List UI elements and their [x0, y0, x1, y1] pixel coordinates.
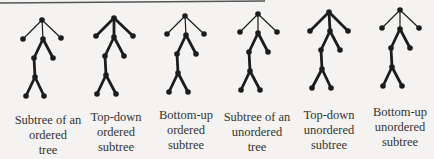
caption-line: tree [217, 140, 297, 155]
thick-edge-A-C [105, 56, 106, 75]
trees-layer [20, 7, 422, 99]
caption-line: Top-down [289, 108, 369, 123]
caption-line: Bottom-up [360, 105, 434, 120]
thick-edge-M-A [105, 37, 114, 56]
tree-node-L [379, 25, 385, 31]
thin-edge-root-R [185, 16, 204, 34]
tree-node-M [397, 26, 403, 32]
thick-edge-A-C [249, 52, 250, 71]
thick-edge-M-B [400, 29, 410, 48]
tree-node-M [40, 36, 46, 42]
thin-edge-root-R [400, 10, 419, 28]
thick-edge-M-B [43, 39, 53, 58]
thick-edge-M-B [330, 31, 340, 50]
tree-node-M [327, 28, 333, 34]
tree-node-R [274, 29, 280, 35]
caption-line: unordered [360, 120, 434, 135]
thick-edge-M-A [391, 29, 400, 48]
caption-subtree-unordered-tree: Subtree of anunorderedtree [217, 110, 297, 155]
tree-node-R [201, 31, 207, 37]
tree-node-C [175, 70, 181, 76]
thick-edge-root-L [96, 18, 114, 36]
tree-node-R [416, 25, 422, 31]
thick-edge-root-L [310, 12, 329, 31]
tree-node-L [93, 33, 99, 39]
caption-line: subtree [146, 138, 226, 153]
thick-edge-C-D [26, 77, 35, 96]
thick-edge-root-R [329, 12, 348, 31]
caption-line: subtree [289, 138, 369, 153]
caption-line: unordered [289, 123, 369, 138]
tree-node-A [246, 49, 252, 55]
tree-top-down-unordered-subtree [307, 9, 351, 91]
caption-line: Bottom-up [146, 108, 226, 123]
tree-node-E [399, 83, 405, 89]
thick-edge-C-D [97, 75, 106, 94]
thick-edge-M-B [114, 37, 124, 56]
top-border-rule [0, 1, 265, 3]
tree-node-root [326, 9, 332, 15]
tree-node-D [166, 89, 172, 95]
tree-node-L [237, 29, 243, 35]
caption-line: ordered [146, 123, 226, 138]
tree-node-root [182, 13, 188, 19]
tree-node-R [345, 28, 351, 34]
thick-edge-M-A [177, 35, 186, 54]
tree-node-C [247, 68, 253, 74]
thick-edge-A-C [177, 54, 178, 73]
thick-edge-C-D [241, 71, 250, 90]
thick-edge-M-B [258, 33, 268, 52]
tree-top-down-ordered-subtree [93, 15, 136, 97]
thin-edge-root-R [42, 20, 61, 38]
thick-edge-C-E [322, 69, 331, 88]
tree-node-B [407, 45, 413, 51]
thick-edge-C-E [392, 67, 402, 86]
tree-node-B [265, 49, 271, 55]
tree-node-C [103, 72, 109, 78]
thin-edge-root-L [240, 14, 258, 32]
thin-edge-root-L [167, 16, 185, 34]
tree-node-B [121, 53, 127, 59]
tree-node-root [255, 11, 261, 17]
thick-edge-C-E [250, 71, 260, 90]
tree-node-M [111, 34, 117, 40]
tree-node-A [102, 53, 108, 59]
thick-edge-C-D [169, 73, 178, 92]
thin-edge-root-M [185, 16, 186, 35]
tree-node-L [307, 28, 313, 34]
tree-node-B [193, 51, 199, 57]
tree-node-C [32, 74, 38, 80]
thick-edge-M-A [321, 31, 330, 50]
thick-edge-A-C [321, 50, 322, 69]
tree-node-E [113, 91, 119, 97]
tree-node-R [130, 33, 136, 39]
tree-node-D [380, 83, 386, 89]
caption-top-down-ordered-subtree: Top-downorderedsubtree [76, 110, 156, 155]
tree-node-E [328, 85, 334, 91]
thin-edge-root-R [258, 14, 277, 32]
thick-edge-M-B [186, 35, 196, 54]
thin-edge-root-M [42, 20, 43, 39]
thick-edge-C-E [106, 75, 116, 94]
thin-edge-root-L [23, 20, 42, 39]
tree-node-root [397, 7, 403, 13]
caption-line: Top-down [76, 110, 156, 125]
tree-node-E [185, 89, 191, 95]
tree-node-D [23, 93, 29, 99]
tree-subtree-unordered-tree [237, 11, 280, 93]
thick-edge-root-M [329, 12, 330, 31]
thick-edge-C-D [312, 69, 322, 88]
caption-top-down-unordered-subtree: Top-downunorderedsubtree [289, 108, 369, 153]
tree-node-C [319, 66, 325, 72]
caption-line: ordered [76, 125, 156, 140]
thick-edge-C-E [178, 73, 188, 92]
thick-edge-A-C [391, 48, 392, 67]
tree-node-root [39, 17, 45, 23]
tree-node-B [337, 47, 343, 53]
tree-node-R [58, 35, 64, 41]
thin-edge-root-L [382, 10, 400, 28]
caption-bottom-up-ordered-subtree: Bottom-uporderedsubtree [146, 108, 226, 153]
tree-node-D [238, 87, 244, 93]
tree-node-E [257, 87, 263, 93]
tree-node-D [94, 91, 100, 97]
